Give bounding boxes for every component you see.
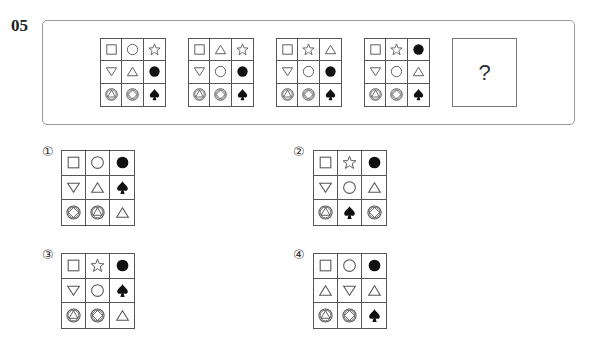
star-icon xyxy=(235,42,250,57)
circle-triangle-icon xyxy=(192,87,207,102)
grid-cell xyxy=(86,151,110,176)
spade-icon xyxy=(341,204,358,221)
star-icon xyxy=(89,257,106,274)
square-icon xyxy=(65,257,82,274)
filled-circle-icon xyxy=(147,64,162,79)
circle-icon xyxy=(213,64,228,79)
grid-cell xyxy=(320,84,341,106)
circle-icon xyxy=(89,282,106,299)
grid-cell xyxy=(362,279,386,304)
option-2-label[interactable]: ② xyxy=(293,144,305,159)
grid-cell xyxy=(314,279,338,304)
down-triangle-icon xyxy=(368,64,383,79)
circle-icon xyxy=(341,257,358,274)
grid-cell xyxy=(362,254,386,279)
question-number: 05 xyxy=(11,16,28,36)
down-triangle-icon xyxy=(192,64,207,79)
grid-cell xyxy=(365,39,386,61)
square-icon xyxy=(104,42,119,57)
spade-icon xyxy=(147,87,162,102)
down-triangle-icon xyxy=(341,282,358,299)
grid-cell xyxy=(298,39,319,61)
spade-icon xyxy=(235,87,250,102)
grid-cell xyxy=(314,254,338,279)
grid-cell xyxy=(338,176,362,201)
grid-cell xyxy=(122,84,143,106)
up-triangle-icon xyxy=(317,282,334,299)
grid-cell xyxy=(110,254,134,279)
circle-icon xyxy=(89,154,106,171)
grid-cell xyxy=(408,84,429,106)
star-icon xyxy=(341,154,358,171)
circle-diamond-icon xyxy=(341,307,358,324)
option-4-label[interactable]: ④ xyxy=(293,247,305,262)
circle-icon xyxy=(301,64,316,79)
circle-triangle-icon xyxy=(65,307,82,324)
filled-circle-icon xyxy=(114,257,131,274)
grid-cell xyxy=(314,176,338,201)
grid-cell xyxy=(386,61,407,83)
grid-cell xyxy=(189,61,210,83)
star-icon xyxy=(301,42,316,57)
grid-cell xyxy=(365,84,386,106)
down-triangle-icon xyxy=(317,179,334,196)
star-icon xyxy=(147,42,162,57)
circle-triangle-icon xyxy=(317,204,334,221)
filled-circle-icon xyxy=(114,154,131,171)
sequence-grid-1 xyxy=(100,38,166,107)
grid-cell xyxy=(86,254,110,279)
grid-cell xyxy=(86,279,110,304)
grid-cell xyxy=(320,39,341,61)
grid-cell xyxy=(338,254,362,279)
spade-icon xyxy=(366,307,383,324)
down-triangle-icon xyxy=(104,64,119,79)
grid-cell xyxy=(314,151,338,176)
grid-cell xyxy=(62,151,86,176)
circle-triangle-icon xyxy=(104,87,119,102)
option-1-label[interactable]: ① xyxy=(42,144,54,159)
up-triangle-icon xyxy=(114,204,131,221)
grid-cell xyxy=(210,61,231,83)
square-icon xyxy=(65,154,82,171)
circle-triangle-icon xyxy=(280,87,295,102)
up-triangle-icon xyxy=(366,179,383,196)
spade-icon xyxy=(323,87,338,102)
grid-cell xyxy=(101,39,122,61)
filled-circle-icon xyxy=(366,257,383,274)
grid-cell xyxy=(110,279,134,304)
grid-cell xyxy=(210,84,231,106)
option-1-grid[interactable] xyxy=(61,150,135,226)
circle-diamond-icon xyxy=(125,87,140,102)
grid-cell xyxy=(144,61,165,83)
grid-cell xyxy=(110,151,134,176)
grid-cell xyxy=(232,61,253,83)
grid-cell xyxy=(144,84,165,106)
grid-cell xyxy=(408,61,429,83)
grid-cell xyxy=(314,200,338,225)
grid-cell xyxy=(362,176,386,201)
grid-cell xyxy=(210,39,231,61)
circle-triangle-icon xyxy=(317,307,334,324)
option-3-label[interactable]: ③ xyxy=(42,247,54,262)
option-3-grid[interactable] xyxy=(61,253,135,329)
grid-cell xyxy=(122,61,143,83)
grid-cell xyxy=(362,303,386,328)
spade-icon xyxy=(114,179,131,196)
up-triangle-icon xyxy=(366,282,383,299)
grid-cell xyxy=(232,39,253,61)
circle-diamond-icon xyxy=(301,87,316,102)
up-triangle-icon xyxy=(114,307,131,324)
up-triangle-icon xyxy=(125,64,140,79)
option-4-grid[interactable] xyxy=(313,253,387,329)
grid-cell xyxy=(408,39,429,61)
grid-cell xyxy=(62,254,86,279)
grid-cell xyxy=(62,303,86,328)
grid-cell xyxy=(277,61,298,83)
grid-cell xyxy=(101,61,122,83)
grid-cell xyxy=(338,151,362,176)
down-triangle-icon xyxy=(65,282,82,299)
circle-diamond-icon xyxy=(89,307,106,324)
option-2-grid[interactable] xyxy=(313,150,387,226)
grid-cell xyxy=(338,279,362,304)
circle-diamond-icon xyxy=(213,87,228,102)
